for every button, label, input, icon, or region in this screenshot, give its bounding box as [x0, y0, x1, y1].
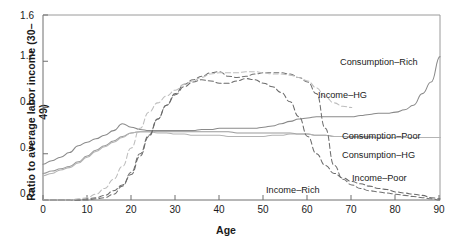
chart-figure: Ratio to average labor income (30–49) Ag… — [0, 0, 452, 244]
income-rich-label: Income–Rich — [266, 185, 320, 195]
consumption-rich-label: Consumption–Rich — [340, 57, 418, 67]
plot-canvas — [0, 0, 452, 244]
series-line-5 — [43, 72, 352, 200]
consumption-hg-label: Consumption–HG — [342, 150, 415, 160]
income-poor-label: Income–Poor — [352, 173, 407, 183]
consumption-poor-label: Consumption–Poor — [342, 131, 421, 141]
income-hg-label: Income–HG — [318, 90, 367, 100]
